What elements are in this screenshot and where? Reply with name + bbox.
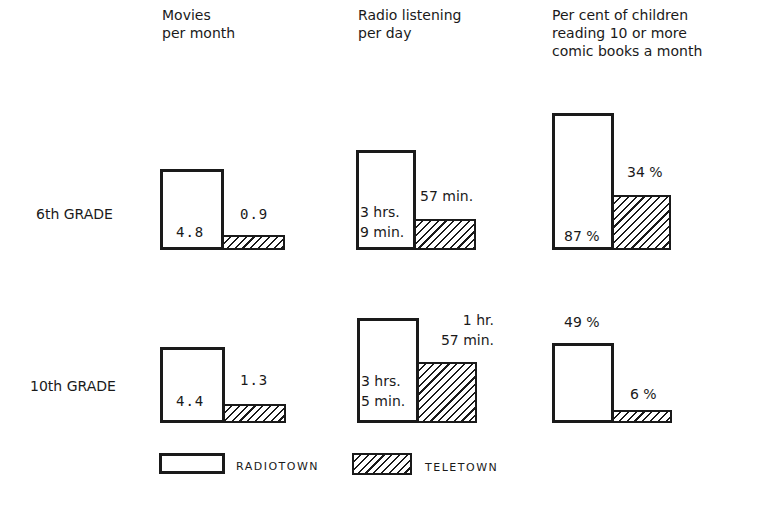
value-radio-10th-teletown: 1 hr. 57 min. <box>424 310 494 350</box>
value-radio-10th-radiotown: 3 hrs. 5 min. <box>361 371 405 411</box>
row-label-10th-grade: 10th GRADE <box>30 378 116 394</box>
value-comics-10th-teletown: 6 % <box>630 384 657 404</box>
value-radio-6th-teletown: 57 min. <box>420 186 473 206</box>
heading-movies: Movies per month <box>162 6 235 42</box>
heading-radio: Radio listening per day <box>358 6 462 42</box>
bar-comics-6th-teletown <box>612 195 671 250</box>
legend-label-radiotown: RADIOTOWN <box>236 460 319 473</box>
bar-radio-10th-teletown <box>417 362 477 423</box>
value-comics-6th-teletown: 34 % <box>627 162 663 182</box>
value-movies-10th-radiotown: 4.4 <box>176 391 204 411</box>
bar-radio-6th-teletown <box>414 219 476 250</box>
bar-movies-6th-teletown <box>222 235 285 250</box>
value-comics-6th-radiotown: 87 % <box>564 226 600 246</box>
row-label-6th-grade: 6th GRADE <box>36 206 113 222</box>
value-radio-6th-radiotown: 3 hrs. 9 min. <box>360 202 404 242</box>
bar-comics-10th-teletown <box>612 410 672 423</box>
heading-comics: Per cent of children reading 10 or more … <box>552 6 702 60</box>
value-comics-10th-radiotown: 49 % <box>564 312 600 332</box>
bar-movies-10th-teletown <box>223 404 286 423</box>
legend-label-teletown: TELETOWN <box>425 461 498 474</box>
value-movies-6th-radiotown: 4.8 <box>176 222 204 242</box>
legend-swatch-teletown <box>352 453 412 475</box>
value-movies-10th-teletown: 1.3 <box>240 370 268 390</box>
legend-swatch-radiotown <box>159 453 225 474</box>
bar-comics-10th-radiotown <box>552 343 614 423</box>
bar-movies-10th-radiotown <box>160 347 225 423</box>
value-movies-6th-teletown: 0.9 <box>240 204 268 224</box>
